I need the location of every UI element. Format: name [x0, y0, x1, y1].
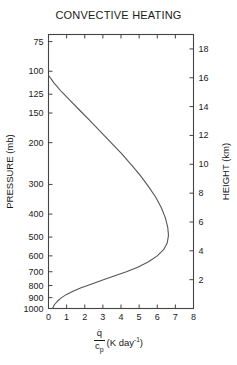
x-tick-label: 0 — [46, 312, 51, 322]
y-tick-label: 200 — [28, 138, 43, 148]
y-tick-label: 400 — [28, 209, 43, 219]
x-axis-title: q̇ cp (K day-1) — [0, 330, 237, 353]
x-tick-label: 8 — [191, 312, 196, 322]
y-tick-label: 600 — [28, 251, 43, 261]
x-tick-label: 2 — [82, 312, 87, 322]
y-tick-label: 800 — [28, 281, 43, 291]
y2-tick-label: 14 — [199, 102, 209, 112]
x-tick-label: 3 — [100, 312, 105, 322]
axis-ticks — [49, 35, 194, 309]
y2-tick-label: 4 — [199, 246, 204, 256]
y-tick-label: 300 — [28, 179, 43, 189]
y2-tick-label: 2 — [199, 275, 204, 285]
y-tick-label: 1000 — [23, 304, 43, 314]
y2-tick-label: 6 — [199, 217, 204, 227]
x-tick-label: 1 — [64, 312, 69, 322]
y-tick-label: 125 — [28, 89, 43, 99]
heating-rate-curve — [49, 76, 168, 308]
plot-frame — [49, 35, 194, 309]
y-tick-label: 900 — [28, 293, 43, 303]
x-axis-units: (K day-1) — [107, 336, 143, 348]
y-tick-label: 75 — [33, 37, 43, 47]
y-tick-label: 700 — [28, 267, 43, 277]
y2-tick-label: 12 — [199, 130, 209, 140]
x-axis-fraction: q̇ cp — [94, 329, 105, 352]
y2-tick-label: 16 — [199, 73, 209, 83]
chart-plot-svg: 7510012515020030040050060070080090010002… — [0, 0, 237, 365]
x-tick-label: 7 — [173, 312, 178, 322]
x-axis-numerator: q̇ — [94, 329, 105, 339]
x-tick-label: 4 — [118, 312, 123, 322]
y2-tick-label: 10 — [199, 159, 209, 169]
y-tick-label: 100 — [28, 66, 43, 76]
data-curve-group — [49, 76, 168, 308]
y-tick-label: 500 — [28, 232, 43, 242]
y2-axis-title: HEIGHT (km) — [220, 143, 231, 200]
x-tick-label: 6 — [155, 312, 160, 322]
y2-tick-label: 8 — [199, 188, 204, 198]
x-tick-label: 5 — [137, 312, 142, 322]
y2-tick-label: 18 — [199, 44, 209, 54]
y-tick-label: 150 — [28, 108, 43, 118]
chart-figure: CONVECTIVE HEATING 751001251502003004005… — [0, 0, 237, 365]
x-axis-denominator: cp — [94, 340, 105, 353]
y-axis-title: PRESSURE (mb) — [4, 134, 15, 208]
